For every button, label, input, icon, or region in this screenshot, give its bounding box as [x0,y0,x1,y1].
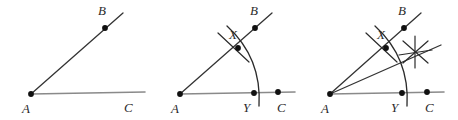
point-x [235,45,241,51]
label-a: A [320,101,329,116]
angle-bisector-construction-figure: ABCABCXYABCXY [0,0,458,120]
label-c: C [425,100,434,115]
point-a [28,91,34,97]
label-b: B [250,3,258,18]
label-x: X [228,27,238,42]
point-y [399,90,405,96]
label-a: A [21,101,30,116]
point-c [275,89,281,95]
label-c: C [124,100,133,115]
label-x: X [376,27,386,42]
label-c: C [277,100,286,115]
label-b: B [398,3,406,18]
point-x [383,45,389,51]
point-b [252,25,258,31]
point-a [327,91,333,97]
point-b [401,25,407,31]
point-y [251,90,257,96]
point-b [102,25,108,31]
label-b: B [98,3,106,18]
label-a: A [170,101,179,116]
point-a [177,91,183,97]
point-c [424,89,430,95]
